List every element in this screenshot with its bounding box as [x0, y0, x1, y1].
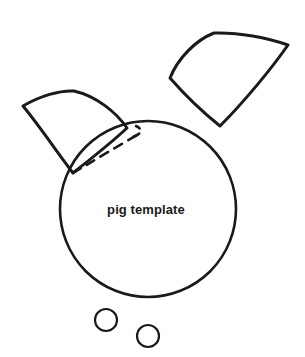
pig-template-canvas: pig template [0, 0, 305, 357]
pig-head-circle [60, 121, 236, 297]
pig-template-drawing [0, 0, 305, 357]
pig-ear-left-fold-line [73, 134, 139, 173]
pig-nostril-right [137, 325, 159, 347]
pig-ear-left-fold-hook [133, 126, 141, 137]
pig-ear-right [170, 33, 288, 126]
pig-nostril-left [95, 309, 117, 331]
